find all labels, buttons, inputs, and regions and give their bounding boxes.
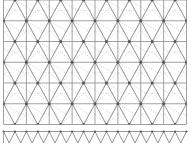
- dotted-subdivision-line: [15, 114, 26, 124]
- lattice-node: [48, 102, 51, 105]
- dotted-subdivision-line: [26, 73, 37, 83]
- dotted-subdivision-line: [106, 93, 117, 103]
- lattice-node: [174, 82, 177, 85]
- lattice-node: [71, 19, 74, 22]
- dotted-subdivision-line: [26, 52, 37, 62]
- diagonal-line: [187, 0, 195, 21]
- dotted-subdivision-line: [38, 93, 49, 103]
- dotted-subdivision-line: [187, 10, 195, 20]
- dotted-subdivision-line: [141, 31, 152, 41]
- dotted-subdivision-line: [129, 114, 140, 124]
- strip-node: [82, 130, 84, 132]
- diagonal-line: [0, 62, 4, 83]
- dotted-subdivision-line: [0, 83, 9, 93]
- diagonal-line: [0, 83, 4, 104]
- strip-node: [25, 130, 27, 132]
- dotted-subdivision-line: [129, 31, 140, 41]
- dotted-subdivision-line: [175, 52, 186, 62]
- dotted-subdivision-line: [38, 31, 49, 41]
- dotted-subdivision-line: [49, 114, 60, 124]
- dotted-subdivision-line: [118, 52, 129, 62]
- lattice-node: [162, 61, 165, 64]
- pattern-figure: [0, 0, 194, 143]
- dotted-subdivision-line: [187, 62, 195, 72]
- dotted-subdivision-line: [187, 31, 195, 41]
- dotted-subdivision-line: [38, 52, 49, 62]
- diagonal-line: [187, 62, 195, 83]
- dotted-subdivision-line: [106, 31, 117, 41]
- lattice-node: [139, 102, 142, 105]
- lattice-node: [82, 40, 85, 43]
- lattice-node: [82, 82, 85, 85]
- strip-zigzag: [4, 132, 187, 144]
- dotted-subdivision-line: [106, 73, 117, 83]
- diagonal-line: [0, 42, 4, 63]
- dotted-subdivision-line: [192, 0, 194, 10]
- strip-node: [174, 130, 176, 132]
- dotted-subdivision-line: [26, 31, 37, 41]
- strip-node: [48, 130, 50, 132]
- lattice-node: [116, 102, 119, 105]
- lattice-node: [105, 82, 108, 85]
- dotted-subdivision-line: [84, 73, 95, 83]
- lattice-node: [59, 40, 62, 43]
- lattice-node: [36, 40, 39, 43]
- dotted-subdivision-line: [26, 93, 37, 103]
- dotted-subdivision-line: [0, 10, 4, 20]
- dotted-subdivision-line: [175, 93, 186, 103]
- dotted-subdivision-line: [84, 93, 95, 103]
- dotted-subdivision-line: [0, 52, 4, 62]
- dotted-subdivision-line: [15, 93, 26, 103]
- dotted-subdivision-line: [95, 10, 106, 20]
- dotted-subdivision-line: [192, 83, 194, 93]
- dotted-subdivision-line: [175, 10, 186, 20]
- dotted-subdivision-line: [129, 52, 140, 62]
- dotted-subdivision-line: [61, 31, 72, 41]
- dotted-subdivision-line: [4, 10, 15, 20]
- dotted-subdivision-line: [0, 31, 4, 41]
- dotted-subdivision-line: [141, 93, 152, 103]
- dotted-subdivision-line: [187, 21, 195, 31]
- dotted-subdivision-line: [38, 10, 49, 20]
- lattice-node: [94, 102, 97, 105]
- dotted-subdivision-line: [61, 10, 72, 20]
- dotted-subdivision-line: [187, 52, 195, 62]
- dotted-subdivision-line: [0, 62, 4, 72]
- diagonal-line: [187, 21, 195, 42]
- dotted-subdivision-line: [141, 73, 152, 83]
- dotted-subdivision-line: [95, 52, 106, 62]
- dotted-subdivision-line: [49, 52, 60, 62]
- strip-node: [140, 130, 142, 132]
- dotted-subdivision-line: [95, 93, 106, 103]
- lattice-node: [128, 82, 131, 85]
- dotted-subdivision-line: [4, 114, 15, 124]
- diagonal-line: [0, 21, 4, 42]
- lattice-node: [151, 40, 154, 43]
- lattice-node: [162, 19, 165, 22]
- dotted-subdivision-line: [0, 21, 4, 31]
- lattice-node: [71, 102, 74, 105]
- dotted-subdivision-line: [141, 10, 152, 20]
- dotted-subdivision-line: [129, 93, 140, 103]
- dotted-subdivision-line: [72, 73, 83, 83]
- dotted-subdivision-line: [61, 52, 72, 62]
- strip-node: [128, 130, 130, 132]
- lattice-node: [94, 19, 97, 22]
- dotted-subdivision-line: [4, 31, 15, 41]
- dotted-subdivision-line: [72, 114, 83, 124]
- lattice-node: [105, 40, 108, 43]
- dotted-subdivision-line: [0, 42, 9, 52]
- dotted-subdivision-line: [72, 10, 83, 20]
- diagonal-line: [0, 0, 4, 21]
- dotted-subdivision-line: [0, 104, 4, 114]
- lattice-node: [48, 19, 51, 22]
- lattice-node: [94, 61, 97, 64]
- strip-node: [185, 130, 187, 132]
- diagonal-line: [0, 104, 4, 125]
- lattice-panel: [0, 0, 194, 126]
- dotted-subdivision-line: [4, 73, 15, 83]
- dotted-subdivision-line: [164, 93, 175, 103]
- dotted-subdivision-line: [84, 52, 95, 62]
- dotted-subdivision-line: [15, 52, 26, 62]
- dotted-subdivision-line: [164, 10, 175, 20]
